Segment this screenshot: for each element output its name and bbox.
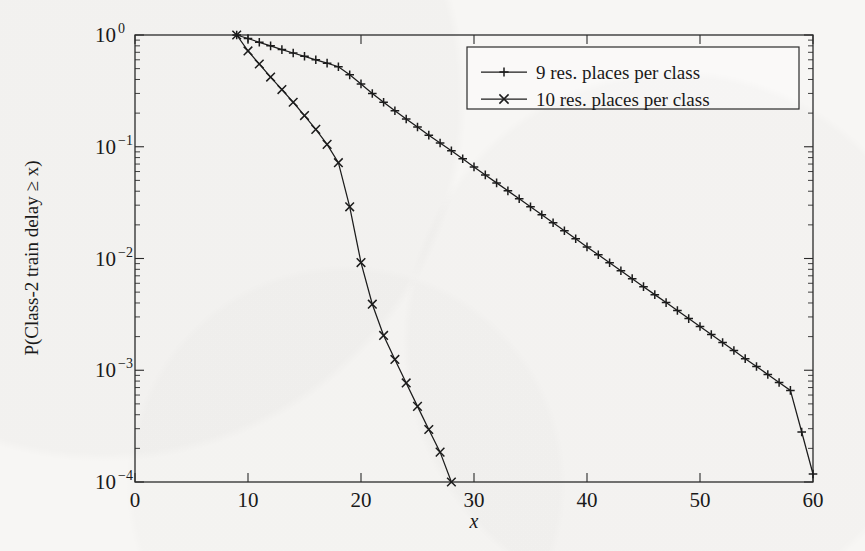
- data-point-marker: [628, 274, 637, 283]
- legend-label: 9 res. places per class: [536, 62, 700, 83]
- x-tick-label: 30: [464, 488, 485, 512]
- data-point-marker: [334, 62, 343, 71]
- data-point-marker: [662, 298, 671, 307]
- data-point-marker: [312, 55, 321, 64]
- y-axis-title: P(Class-2 train delay ≥ x): [21, 160, 43, 355]
- data-point-marker: [413, 123, 422, 132]
- data-point-marker: [255, 60, 264, 69]
- x-tick-label: 40: [577, 488, 598, 512]
- y-tick-label: 10−2: [95, 245, 133, 271]
- data-point-marker: [447, 146, 456, 155]
- series-2: [232, 31, 455, 487]
- x-tick-label: 60: [803, 488, 824, 512]
- data-point-marker: [651, 290, 660, 299]
- data-point-marker: [278, 45, 287, 54]
- data-point-marker: [730, 346, 739, 355]
- data-point-marker: [379, 331, 388, 340]
- figure-container: 0102030405060 10010−110−210−310−4 x P(Cl…: [0, 0, 865, 551]
- data-point-marker: [289, 98, 298, 107]
- y-axis-tick-labels: 10010−110−210−310−4: [95, 21, 133, 494]
- data-point-marker: [707, 330, 716, 339]
- data-point-marker: [300, 52, 309, 61]
- data-point-marker: [605, 258, 614, 267]
- data-point-marker: [549, 218, 558, 227]
- data-point-marker: [300, 111, 309, 120]
- data-point-marker: [391, 355, 400, 364]
- data-point-marker: [515, 195, 524, 204]
- data-point-marker: [368, 300, 377, 309]
- data-point-marker: [266, 73, 275, 82]
- data-point-marker: [809, 470, 818, 479]
- data-point-marker: [571, 235, 580, 244]
- series-line: [237, 35, 452, 482]
- data-point-marker: [458, 155, 467, 164]
- data-point-marker: [684, 314, 693, 323]
- data-point-marker: [526, 203, 535, 212]
- data-point-marker: [504, 187, 513, 196]
- data-point-marker: [470, 163, 479, 172]
- data-point-marker: [617, 266, 626, 275]
- data-point-marker: [402, 379, 411, 388]
- data-point-marker: [492, 179, 501, 188]
- x-tick-label: 0: [130, 488, 141, 512]
- data-point-marker: [639, 282, 648, 291]
- data-point-marker: [266, 42, 275, 51]
- data-point-marker: [741, 354, 750, 363]
- y-tick-exponent: −2: [118, 245, 133, 260]
- y-tick-label: 10−1: [95, 133, 133, 159]
- data-point-marker: [718, 338, 727, 347]
- x-tick-label: 50: [690, 488, 711, 512]
- x-axis-title: x: [469, 510, 479, 532]
- data-point-marker: [696, 322, 705, 331]
- data-point-marker: [764, 370, 773, 379]
- data-point-marker: [560, 226, 569, 235]
- data-point-marker: [413, 402, 422, 411]
- y-tick-exponent: 0: [118, 21, 125, 36]
- data-point-marker: [436, 448, 445, 457]
- y-tick-label: 10−4: [95, 468, 133, 494]
- y-tick-mantissa: 10: [95, 23, 116, 47]
- data-point-marker: [334, 158, 343, 167]
- y-tick-label: 100: [95, 21, 125, 47]
- y-tick-exponent: −3: [118, 356, 133, 371]
- data-point-marker: [673, 306, 682, 315]
- x-axis-tick-labels: 0102030405060: [130, 488, 824, 512]
- data-point-marker: [312, 125, 321, 134]
- data-point-marker: [278, 85, 287, 94]
- data-point-marker: [797, 428, 806, 437]
- x-tick-label: 10: [238, 488, 259, 512]
- data-point-marker: [323, 59, 332, 68]
- data-point-marker: [583, 243, 592, 252]
- y-tick-mantissa: 10: [95, 247, 116, 271]
- data-point-marker: [323, 140, 332, 149]
- data-point-marker: [786, 386, 795, 395]
- legend-label: 10 res. places per class: [536, 89, 710, 110]
- y-tick-mantissa: 10: [95, 135, 116, 159]
- data-point-marker: [775, 378, 784, 387]
- legend: 9 res. places per class10 res. places pe…: [467, 47, 799, 110]
- data-point-marker: [538, 211, 547, 220]
- y-tick-exponent: −1: [118, 133, 133, 148]
- data-point-marker: [436, 139, 445, 148]
- data-point-marker: [481, 171, 490, 180]
- data-point-marker: [594, 250, 603, 259]
- y-tick-mantissa: 10: [95, 470, 116, 494]
- x-tick-label: 20: [351, 488, 372, 512]
- y-tick-mantissa: 10: [95, 358, 116, 382]
- data-point-marker: [425, 131, 434, 140]
- log-survival-plot: 0102030405060 10010−110−210−310−4 x P(Cl…: [0, 0, 865, 551]
- data-point-marker: [255, 38, 264, 47]
- data-point-marker: [425, 425, 434, 434]
- data-point-marker: [402, 115, 411, 124]
- data-point-marker: [289, 49, 298, 58]
- data-point-marker: [244, 47, 253, 56]
- data-point-marker: [752, 362, 761, 371]
- y-tick-label: 10−3: [95, 356, 133, 382]
- y-tick-exponent: −4: [118, 468, 133, 483]
